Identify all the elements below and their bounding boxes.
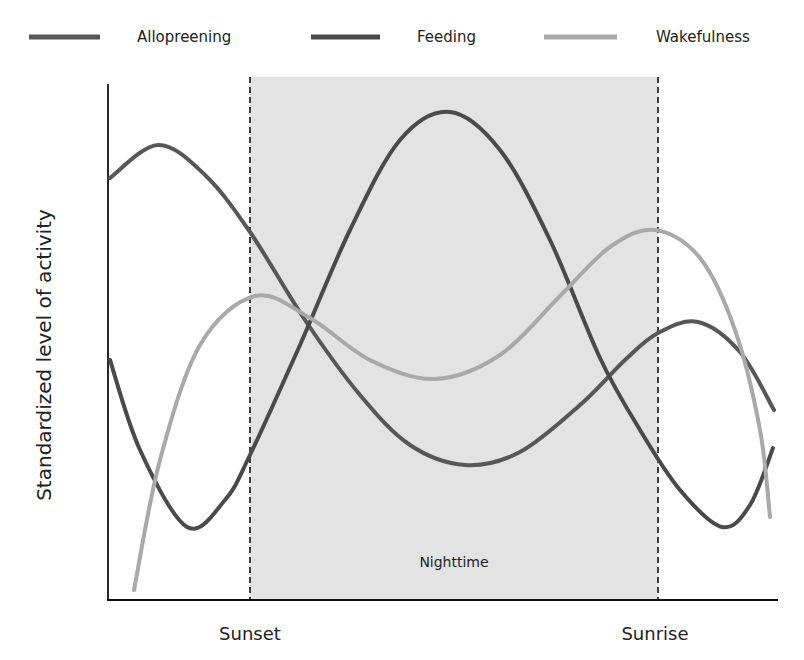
legend-item-wakefulness: Wakefulness — [544, 28, 750, 46]
nighttime-shaded-region — [250, 77, 658, 600]
legend-label: Allopreening — [137, 28, 231, 46]
legend: Allopreening Feeding Wakefulness — [29, 28, 750, 46]
sunset-label: Sunset — [219, 623, 281, 644]
nighttime-label: Nighttime — [419, 554, 488, 570]
legend-label: Wakefulness — [656, 28, 750, 46]
activity-chart: Allopreening Feeding Wakefulness Standar… — [0, 0, 804, 660]
legend-label: Feeding — [417, 28, 476, 46]
sunrise-label: Sunrise — [621, 623, 688, 644]
legend-item-feeding: Feeding — [311, 28, 476, 46]
legend-item-allopreening: Allopreening — [29, 28, 231, 46]
y-axis-label: Standardized level of activity — [32, 209, 56, 501]
